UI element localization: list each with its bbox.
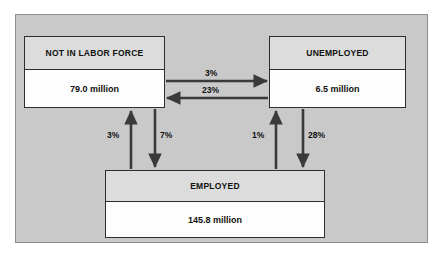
node-not-in-labor-force-label: NOT IN LABOR FORCE [25, 37, 164, 70]
node-employed-value: 145.8 million [106, 202, 324, 237]
node-employed: EMPLOYED 145.8 million [105, 170, 325, 238]
diagram-canvas: NOT IN LABOR FORCE 79.0 million UNEMPLOY… [0, 0, 448, 261]
edge-label-nilf-to-employed: 7% [160, 130, 172, 140]
node-unemployed: UNEMPLOYED 6.5 million [269, 36, 406, 108]
edge-label-unemployed-to-nilf: 23% [202, 85, 219, 95]
node-not-in-labor-force: NOT IN LABOR FORCE 79.0 million [24, 36, 165, 108]
node-employed-label: EMPLOYED [106, 171, 324, 202]
node-unemployed-value: 6.5 million [270, 70, 405, 107]
edge-label-unemployed-to-employed: 28% [308, 130, 325, 140]
edge-label-nilf-to-unemployed: 3% [205, 68, 217, 78]
edge-label-employed-to-unemployed: 1% [252, 130, 264, 140]
edge-label-employed-to-nilf: 3% [107, 130, 119, 140]
node-not-in-labor-force-value: 79.0 million [25, 70, 164, 107]
node-unemployed-label: UNEMPLOYED [270, 37, 405, 70]
